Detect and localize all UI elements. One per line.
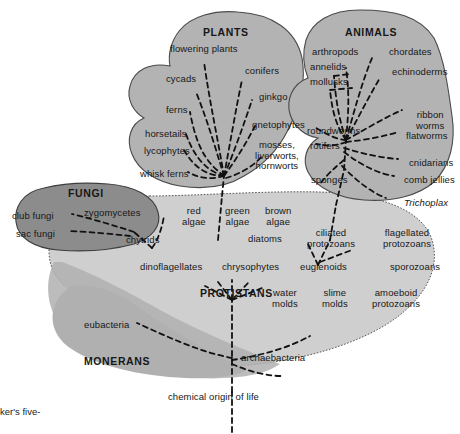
taxon-label-euglenoids: euglenoids (300, 262, 347, 273)
taxon-label-chytrids: chytrids (126, 235, 160, 246)
taxon-label-flowering-plants: flowering plants (170, 44, 238, 55)
taxon-label-club-fungi: club fungi (12, 211, 54, 222)
taxon-label-green-algae: green algae (225, 206, 250, 227)
root-label: chemical origin of life (168, 392, 259, 403)
taxon-label-echinoderms: echinoderms (392, 67, 448, 78)
taxon-label-water-molds: water molds (272, 288, 298, 309)
taxon-label-amoeboid-protozoans: amoeboid protozoans (372, 288, 420, 309)
taxon-label-ginkgo: ginkgo (259, 92, 288, 103)
taxon-label-trichoplax: Trichoplax (404, 198, 448, 209)
taxon-label-whisk-ferns: whisk ferns (140, 169, 189, 180)
taxon-label-cycads: cycads (166, 74, 196, 85)
taxon-label-brown-algae: brown algae (265, 206, 291, 227)
taxon-label-chordates: chordates (389, 47, 432, 58)
taxon-label-dinoflagellates: dinoflagellates (140, 262, 202, 273)
taxon-label-lycophytes: lycophytes (144, 146, 190, 157)
taxon-label-flagellated-protozoans: flagellated protozoans (383, 228, 431, 249)
taxon-label-roundworms: roundworms (307, 126, 360, 137)
taxon-label-chrysophytes: chrysophytes (222, 262, 279, 273)
kingdom-label-fungi: FUNGI (68, 188, 104, 199)
taxon-label-sponges: sponges (311, 175, 348, 186)
taxon-label-sporozoans: sporozoans (390, 262, 440, 273)
taxon-label-ferns: ferns (166, 105, 188, 116)
taxon-label-rotifers: rotifers (310, 141, 340, 152)
taxon-label-zygomycetes: zygomycetes (84, 208, 141, 219)
animals-blob (289, 10, 453, 200)
taxon-label-ribbon-worms: ribbon worms (416, 110, 444, 131)
taxon-label-red-algae: red algae (182, 206, 206, 227)
taxon-label-comb-jellies: comb jellies (404, 175, 455, 186)
taxon-label-cnidarians: cnidarians (409, 158, 453, 169)
taxon-label-slime-molds: slime molds (322, 288, 348, 309)
taxon-label-mollusks: mollusks (310, 77, 348, 88)
taxon-label-annelids: annelids (310, 62, 346, 73)
taxon-label-diatoms: diatoms (248, 234, 282, 245)
taxon-label-mosses-liverworts-hornworts: mosses, liverworts, hornworts (255, 140, 299, 172)
kingdom-label-animals: ANIMALS (345, 27, 397, 38)
taxon-label-ciliated-protozoans: ciliated protozoans (307, 228, 355, 249)
taxon-label-eubacteria: eubacteria (84, 320, 129, 331)
taxon-label-arthropods: arthropods (312, 47, 358, 58)
phylogeny-diagram: PLANTSANIMALSFUNGIPROTISTANSMONERANSflow… (0, 0, 460, 434)
taxon-label-sac-fungi: sac fungi (16, 229, 55, 240)
figure-caption: ker's five- (0, 406, 40, 417)
taxon-label-archaebacteria: archaebacteria (241, 353, 305, 364)
kingdom-label-monerans: MONERANS (84, 356, 150, 367)
kingdom-label-protistans: PROTISTANS (200, 288, 273, 299)
taxon-label-conifers: conifers (245, 66, 279, 77)
taxon-label-horsetails: horsetails (145, 129, 187, 140)
taxon-label-flatworms: flatworms (406, 131, 448, 142)
kingdom-label-plants: PLANTS (203, 27, 249, 38)
taxon-label-gnetophytes: gnetophytes (252, 120, 305, 131)
